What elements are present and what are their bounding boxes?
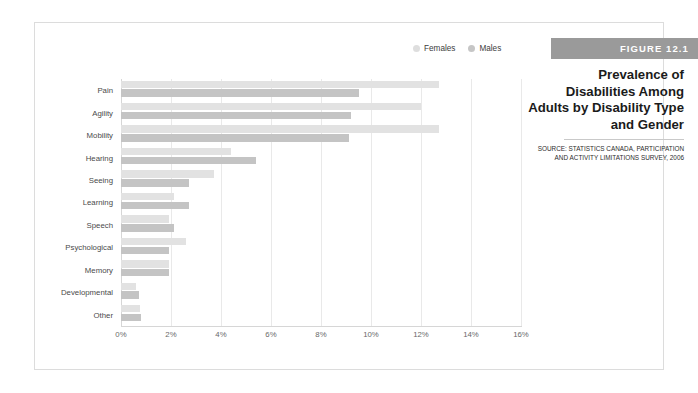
source-divider xyxy=(564,139,684,140)
chart-category-row: Mobility xyxy=(121,124,521,146)
category-label-other: Other xyxy=(94,310,114,319)
bar-agility-males xyxy=(121,112,351,119)
bar-memory-females xyxy=(121,260,169,267)
bar-developmental-males xyxy=(121,291,139,298)
category-label-memory: Memory xyxy=(85,265,113,274)
x-axis-tick-label: 16% xyxy=(513,330,529,339)
bar-agility-females xyxy=(121,103,421,110)
bar-learning-females xyxy=(121,193,174,200)
bar-hearing-females xyxy=(121,148,231,155)
legend-swatch-males xyxy=(468,45,475,52)
bar-psychological-females xyxy=(121,238,186,245)
legend-swatch-females xyxy=(413,45,420,52)
bar-psychological-males xyxy=(121,247,169,254)
bar-other-males xyxy=(121,314,141,321)
bar-seeing-females xyxy=(121,170,214,177)
chart-category-row: Learning xyxy=(121,191,521,213)
bar-other-females xyxy=(121,305,140,312)
bar-seeing-males xyxy=(121,179,189,186)
bar-hearing-males xyxy=(121,157,256,164)
category-label-developmental: Developmental xyxy=(61,288,113,297)
chart-legend: Females Males xyxy=(413,44,501,53)
category-label-seeing: Seeing xyxy=(89,176,113,185)
category-label-agility: Agility xyxy=(92,108,113,117)
figure-title: Prevalence of Disabilities Among Adults … xyxy=(528,67,691,133)
x-axis-line xyxy=(121,326,522,327)
x-axis-tick-label: 6% xyxy=(265,330,276,339)
bar-pain-females xyxy=(121,81,439,88)
plot-area: PainAgilityMobilityHearingSeeingLearning… xyxy=(121,79,521,326)
figure-number-banner: FIGURE 12.1 xyxy=(551,38,698,59)
bar-mobility-females xyxy=(121,125,439,132)
category-label-pain: Pain xyxy=(97,86,113,95)
x-axis-tick-label: 8% xyxy=(315,330,326,339)
x-axis-tick-label: 4% xyxy=(215,330,226,339)
chart-category-row: Seeing xyxy=(121,169,521,191)
legend-item-males: Males xyxy=(468,44,501,53)
x-axis-tick-label: 0% xyxy=(115,330,126,339)
category-label-learning: Learning xyxy=(83,198,113,207)
bar-learning-males xyxy=(121,202,189,209)
chart-category-row: Psychological xyxy=(121,236,521,258)
category-label-psychological: Psychological xyxy=(65,243,113,252)
category-label-mobility: Mobility xyxy=(87,131,113,140)
legend-label-males: Males xyxy=(479,44,501,53)
x-axis-tick-label: 10% xyxy=(363,330,379,339)
figure-source-note: SOURCE: STATISTICS CANADA, PARTICIPATION… xyxy=(528,145,691,162)
chart-category-row: Speech xyxy=(121,214,521,236)
bar-speech-females xyxy=(121,215,169,222)
category-label-speech: Speech xyxy=(87,220,113,229)
chart-category-row: Agility xyxy=(121,101,521,123)
x-axis-tick-label: 12% xyxy=(413,330,429,339)
bar-speech-males xyxy=(121,224,174,231)
chart-category-row: Developmental xyxy=(121,281,521,303)
x-axis-tick-label: 2% xyxy=(165,330,176,339)
legend-item-females: Females xyxy=(413,44,455,53)
figure-side-panel: FIGURE 12.1 Prevalence of Disabilities A… xyxy=(528,23,698,213)
chart-category-row: Pain xyxy=(121,79,521,101)
chart-category-row: Hearing xyxy=(121,146,521,168)
chart-category-row: Other xyxy=(121,304,521,326)
figure-frame: Females Males PainAgilityMobilityHearing… xyxy=(34,22,664,370)
legend-label-females: Females xyxy=(424,44,455,53)
chart-category-row: Memory xyxy=(121,259,521,281)
bar-developmental-females xyxy=(121,283,136,290)
bar-pain-males xyxy=(121,89,359,96)
category-label-hearing: Hearing xyxy=(86,153,113,162)
bar-mobility-males xyxy=(121,134,349,141)
gridline-16% xyxy=(521,79,522,326)
x-axis-tick-label: 14% xyxy=(463,330,479,339)
bar-memory-males xyxy=(121,269,169,276)
